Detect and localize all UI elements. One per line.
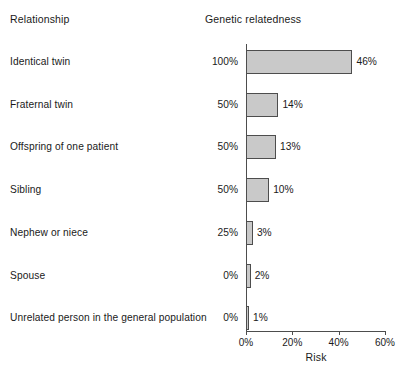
chart-row: Offspring of one patient50%13%	[0, 134, 407, 160]
row-value-genetic-relatedness: 0%	[0, 263, 238, 289]
x-axis-tick	[246, 331, 247, 335]
risk-bar-value-label: 46%	[356, 49, 376, 75]
risk-bar	[246, 178, 269, 202]
x-axis-tick	[339, 331, 340, 335]
risk-bar	[246, 221, 253, 245]
row-value-genetic-relatedness: 100%	[0, 49, 238, 75]
genetic-relatedness-risk-chart: Relationship Genetic relatedness Identic…	[0, 0, 407, 369]
risk-bar-value-label: 14%	[282, 92, 302, 118]
x-axis-tick-label: 60%	[375, 337, 395, 348]
risk-bar-value-label: 2%	[255, 263, 270, 289]
y-axis-line	[246, 44, 247, 332]
row-value-genetic-relatedness: 0%	[0, 305, 238, 331]
risk-bar	[246, 93, 278, 117]
x-axis-tick	[385, 331, 386, 335]
chart-row: Unrelated person in the general populati…	[0, 305, 407, 331]
risk-bar-value-label: 1%	[253, 305, 268, 331]
risk-bar-value-label: 10%	[273, 177, 293, 203]
chart-row: Identical twin100%46%	[0, 49, 407, 75]
x-axis-tick-label: 20%	[282, 337, 302, 348]
x-axis-tick	[292, 331, 293, 335]
x-axis-tick-label: 0%	[239, 337, 253, 348]
chart-rows: Identical twin100%46%Fraternal twin50%14…	[0, 0, 407, 369]
x-axis-title: Risk	[305, 351, 326, 363]
x-axis-tick-label: 40%	[329, 337, 349, 348]
risk-bar	[246, 50, 352, 74]
risk-bar	[246, 135, 276, 159]
chart-row: Nephew or niece25%3%	[0, 220, 407, 246]
chart-row: Spouse0%2%	[0, 263, 407, 289]
chart-row: Sibling50%10%	[0, 177, 407, 203]
row-value-genetic-relatedness: 50%	[0, 134, 238, 160]
risk-bar-value-label: 3%	[257, 220, 272, 246]
row-value-genetic-relatedness: 50%	[0, 92, 238, 118]
row-value-genetic-relatedness: 25%	[0, 220, 238, 246]
x-axis-line	[246, 331, 385, 332]
chart-row: Fraternal twin50%14%	[0, 92, 407, 118]
risk-bar-value-label: 13%	[280, 134, 300, 160]
row-value-genetic-relatedness: 50%	[0, 177, 238, 203]
